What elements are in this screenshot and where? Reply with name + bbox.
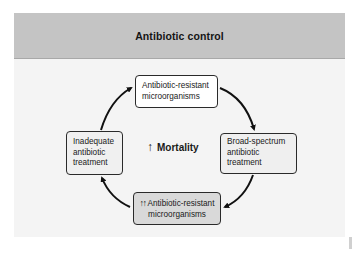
slide-title: Antibiotic control	[135, 30, 224, 42]
node-text-line: antibiotic	[227, 148, 292, 159]
node-increased-resistant-microorganisms: ↑↑Antibiotic-resistant microorganisms	[133, 192, 221, 225]
slide-header: Antibiotic control	[14, 13, 345, 59]
center-mortality-label: ↑ Mortality	[147, 140, 199, 154]
node-text-line: microorganisms	[138, 210, 216, 221]
up-arrow-icon: ↑	[147, 140, 153, 154]
double-up-arrow-icon: ↑↑	[140, 198, 146, 209]
node-text-line: Broad-spectrum	[227, 137, 292, 148]
node-text-line: Antibiotic-resistant	[148, 199, 215, 208]
node-text-line: antibiotic	[73, 148, 118, 159]
node-text-line: Antibiotic-resistant	[142, 81, 213, 92]
node-text-line: microorganisms	[142, 92, 213, 103]
mortality-text: Mortality	[157, 142, 199, 153]
node-broad-spectrum-treatment: Broad-spectrum antibiotic treatment	[220, 133, 297, 174]
node-text-line: treatment	[227, 158, 292, 169]
node-text-line: treatment	[73, 158, 118, 169]
node-text-line: Inadequate	[73, 137, 118, 148]
node-inadequate-treatment: Inadequate antibiotic treatment	[66, 131, 123, 175]
node-antibiotic-resistant-microorganisms: Antibiotic-resistant microorganisms	[135, 75, 218, 108]
